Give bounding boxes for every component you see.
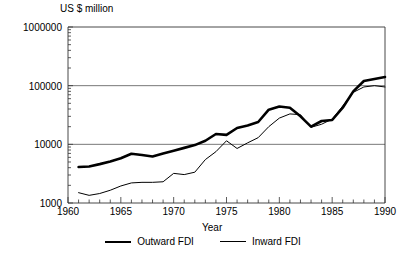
x-axis-title: Year [202, 222, 222, 233]
data-series [79, 77, 385, 195]
x-tick-label: 1970 [163, 206, 185, 217]
x-tick-label: 1960 [57, 206, 79, 217]
series-line-2 [79, 86, 385, 196]
x-tick-label: 1975 [215, 206, 237, 217]
y-axis-title: US $ million [60, 3, 113, 14]
series-line-1 [79, 77, 385, 167]
x-tick-label: 1980 [268, 206, 290, 217]
legend-label: Inward FDI [252, 236, 301, 247]
legend-item: Outward FDI [105, 236, 194, 247]
legend-label: Outward FDI [137, 236, 194, 247]
fdi-line-chart: US $ million Year 1000000100000100001000… [0, 0, 406, 259]
x-tick-label: 1985 [321, 206, 343, 217]
legend-swatch-icon [220, 241, 246, 242]
y-tick-label: 10000 [34, 139, 62, 150]
chart-legend: Outward FDIInward FDI [0, 236, 406, 247]
y-tick-label: 100000 [29, 80, 62, 91]
legend-swatch-icon [105, 241, 131, 243]
legend-item: Inward FDI [220, 236, 301, 247]
x-tick-label: 1965 [110, 206, 132, 217]
x-tick-label: 1990 [374, 206, 396, 217]
y-tick-label: 1000000 [23, 22, 62, 33]
plot-area [0, 0, 406, 259]
